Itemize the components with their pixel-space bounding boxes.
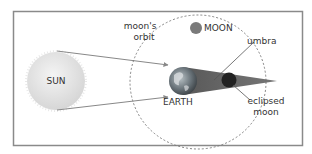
eclipsed-moon-label-line1: eclipsed [247,96,284,106]
moon-icon [190,22,202,34]
moon-label: MOON [204,23,233,33]
umbra-label: umbra [247,36,276,46]
sun: SUN [26,51,86,111]
sun-label: SUN [46,76,65,86]
orbit-label-line2: orbit [134,32,155,42]
umbra-leader-line [214,42,254,80]
orbit-label-line1: moon's [124,21,157,31]
eclipsed-moon-label-line2: moon [253,107,278,117]
earth-icon [169,67,197,95]
earth [169,67,197,95]
earth-label: EARTH [163,97,193,107]
lunar-eclipse-diagram: SUN moon's orbit MOON umbra EARTH eclips… [0,0,312,154]
eclipsed-moon-icon [222,73,237,88]
